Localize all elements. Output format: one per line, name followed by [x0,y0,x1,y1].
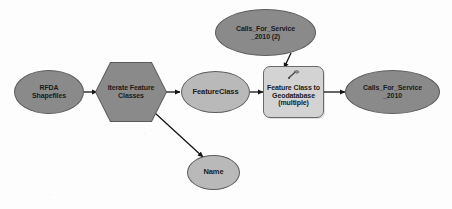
model-builder-canvas[interactable]: RFDA Shapefiles Iterate Feature Classes … [0,0,452,209]
node-feature-class-to-geodatabase-tool-label: Feature Class to Geodatabase (multiple) [264,77,323,107]
node-name-variable-label: Name [188,168,239,176]
node-calls-for-service-2010-output-label: Calls_For_Service _2010 [346,84,439,100]
node-featureclass-variable[interactable]: FeatureClass [181,71,250,113]
node-rfda-shapefiles[interactable]: RFDA Shapefiles [14,70,84,114]
node-calls-for-service-2010-output[interactable]: Calls_For_Service _2010 [345,70,440,114]
node-calls-for-service-2010-2[interactable]: Calls_For_Service _2010 (2) [215,9,316,56]
node-rfda-shapefiles-label: RFDA Shapefiles [15,84,83,100]
node-iterate-feature-classes-label: Iterate Feature Classes [96,84,166,100]
node-iterate-feature-classes[interactable]: Iterate Feature Classes [96,63,166,121]
node-calls-for-service-2010-2-label: Calls_For_Service _2010 (2) [216,25,315,41]
connector-iterator-to-name [155,113,203,157]
node-name-variable[interactable]: Name [187,155,240,190]
hammer-tool-icon [287,70,301,79]
node-featureclass-variable-label: FeatureClass [182,88,249,96]
node-feature-class-to-geodatabase-tool[interactable]: Feature Class to Geodatabase (multiple) [263,66,324,118]
